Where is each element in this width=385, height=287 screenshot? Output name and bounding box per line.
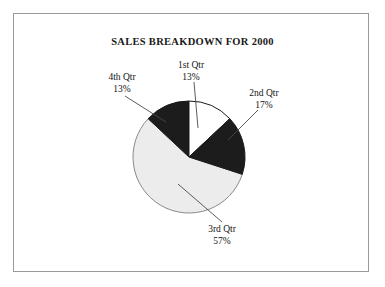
pie-label-1st-qtr-name: 1st Qtr <box>155 60 227 72</box>
pie-label-4th-qtr: 4th Qtr 13% <box>86 72 158 95</box>
pie-label-2nd-qtr-name: 2nd Qtr <box>228 88 300 100</box>
pie-label-4th-qtr-percent: 13% <box>86 84 158 96</box>
pie-label-4th-qtr-name: 4th Qtr <box>86 72 158 84</box>
chart-page: SALES BREAKDOWN FOR 2000 1st Qtr 13% 2nd… <box>0 0 385 287</box>
pie-label-2nd-qtr-percent: 17% <box>228 100 300 112</box>
pie-label-1st-qtr: 1st Qtr 13% <box>155 60 227 83</box>
pie-label-3rd-qtr-percent: 57% <box>186 236 258 248</box>
pie-label-2nd-qtr: 2nd Qtr 17% <box>228 88 300 111</box>
pie-label-1st-qtr-percent: 13% <box>155 72 227 84</box>
pie-label-3rd-qtr: 3rd Qtr 57% <box>186 224 258 247</box>
pie-label-3rd-qtr-name: 3rd Qtr <box>186 224 258 236</box>
